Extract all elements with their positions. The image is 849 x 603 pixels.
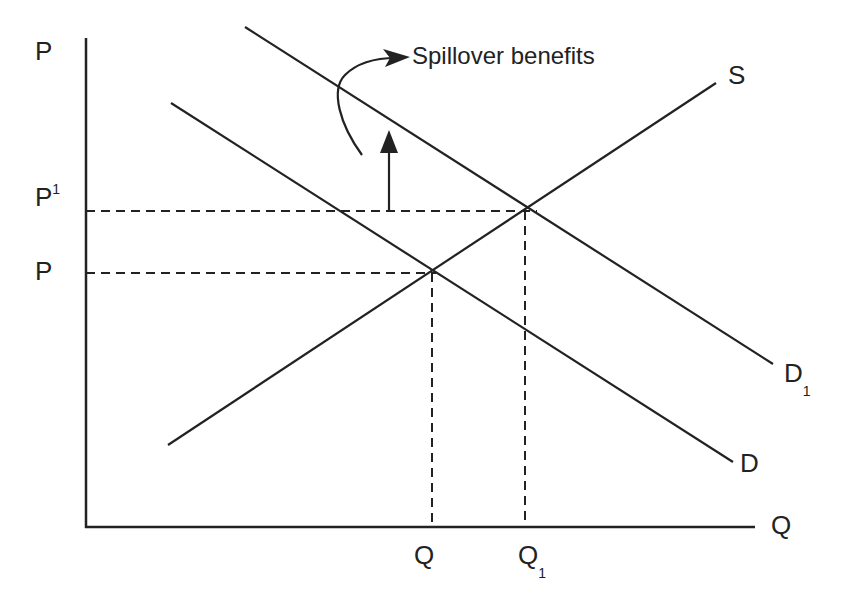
demand-d1-label: D1 [784, 360, 811, 390]
supply-demand-chart [0, 0, 849, 603]
supply-label: S [728, 62, 745, 88]
q-tick-label: Q [414, 542, 434, 568]
q1-tick-label: Q1 [518, 542, 546, 572]
x-axis-title: Q [771, 512, 791, 538]
p1-sup: 1 [52, 181, 60, 197]
p-tick-label: P [35, 258, 52, 284]
shift-arrowhead-icon [380, 130, 398, 153]
d1-sub: 1 [803, 383, 811, 399]
demand-label: D [740, 450, 759, 476]
supply-curve [168, 83, 716, 445]
y-axis-title: P [35, 38, 52, 64]
d1-main: D [784, 358, 803, 388]
demand-curve [171, 103, 733, 462]
q1-main: Q [518, 540, 538, 570]
p1-tick-label: P1 [35, 184, 60, 210]
q1-sub: 1 [538, 565, 546, 581]
spillover-benefits-annotation: Spillover benefits [412, 44, 595, 68]
demand-curve-d1 [245, 27, 773, 364]
p1-main: P [35, 182, 52, 212]
